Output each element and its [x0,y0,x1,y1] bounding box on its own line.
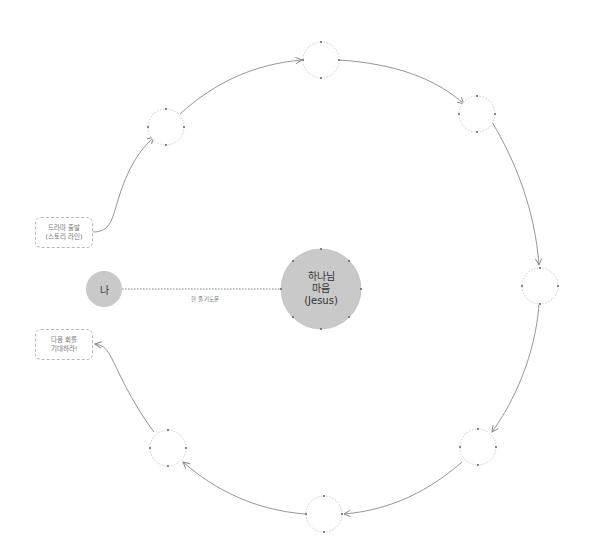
cycle-node-lower-right[interactable] [459,428,497,466]
end-box[interactable]: 다음 회를 기대하라! [35,329,93,360]
arrow-upper-right-to-right [492,122,539,265]
end-box-line2: 기대하라! [51,345,78,354]
start-box-line1: 드라마 출발 [48,224,80,233]
cycle-node-lower-left[interactable] [149,429,187,467]
center-node-line2: 마음 [312,283,330,295]
cycle-node-upper-left[interactable] [147,108,185,146]
cycle-node-right[interactable] [521,267,559,305]
cycle-node-upper-right[interactable] [458,95,496,133]
arrow-lower-right-to-bottom [344,462,462,514]
center-node-line3: (Jesus) [304,295,338,307]
start-box[interactable]: 드라마 출발 (스토리 라인) [35,217,93,248]
me-node-label-wrap: 나 [86,280,122,298]
arrow-bottom-to-lower-left [183,462,305,514]
arrow-lower-left-to-end-box [95,344,154,432]
center-node-label: 하나님 마음 (Jesus) [281,265,361,313]
cycle-node-bottom[interactable] [305,495,343,533]
arrow-start-to-upper-left [93,137,154,232]
start-box-line2: (스토리 라인) [45,233,82,242]
center-node-line1: 하나님 [308,271,335,283]
prayer-connector-label: 한 줄 기도문 [191,295,220,303]
arrow-upper-left-to-top [180,60,302,114]
cycle-node-top[interactable] [302,41,340,79]
arrow-top-to-upper-right [340,60,464,104]
arrow-right-to-lower-right [492,305,539,432]
me-node-label: 나 [100,282,109,297]
end-box-line1: 다음 회를 [51,336,77,345]
